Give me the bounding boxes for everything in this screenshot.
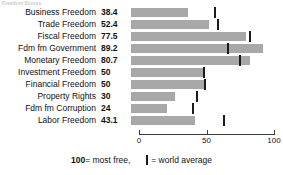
category-label: Monetary Freedom: [0, 56, 100, 65]
value-bar: [131, 80, 205, 89]
value-bar: [131, 116, 195, 125]
category-label: Investment Freedom: [0, 68, 100, 77]
category-value: 24: [100, 104, 131, 113]
chart-row: Financial Freedom 50: [0, 78, 283, 90]
category-value: 38.4: [100, 8, 131, 17]
world-average-marker: [217, 19, 219, 30]
chart-row: Property Rights 30: [0, 90, 283, 102]
value-bar: [131, 20, 209, 29]
world-average-marker: [249, 31, 251, 42]
axis-tick-label: 50: [202, 136, 211, 145]
value-bar: [131, 104, 167, 113]
axis-tick: [139, 130, 140, 135]
bar-track: [131, 6, 279, 18]
value-bar: [131, 32, 246, 41]
world-average-marker-icon: [146, 155, 148, 165]
chart-row: Fdm fm Government 89.2: [0, 42, 283, 54]
chart-row: Investment Freedom 50: [0, 66, 283, 78]
world-average-marker: [239, 55, 241, 66]
value-bar: [131, 44, 263, 53]
value-bar: [131, 56, 250, 65]
category-value: 50: [100, 80, 131, 89]
chart-row: Monetary Freedom 80.7: [0, 54, 283, 66]
category-label: Fdm fm Corruption: [0, 104, 100, 113]
value-bar: [131, 8, 188, 17]
bar-track: [131, 102, 279, 114]
axis-tick: [274, 130, 275, 135]
axis-tick-label: 100: [267, 136, 280, 145]
value-bar: [131, 92, 175, 101]
category-value: 43.1: [100, 116, 131, 125]
category-label: Property Rights: [0, 92, 100, 101]
world-average-marker: [196, 91, 198, 102]
freedom-scores-chart: Freedom Scores Business Freedom 38.4 Tra…: [0, 0, 283, 175]
chart-row: Fdm fm Corruption 24: [0, 102, 283, 114]
legend-scale-note: = most free,: [85, 155, 130, 165]
chart-row: Trade Freedom 52.4: [0, 18, 283, 30]
category-label: Fiscal Freedom: [0, 32, 100, 41]
world-average-marker: [192, 103, 194, 114]
category-label: Trade Freedom: [0, 20, 100, 29]
axis-tick-label: 0: [137, 136, 141, 145]
bar-track: [131, 30, 279, 42]
bar-track: [131, 90, 279, 102]
chart-row: Labor Freedom 43.1: [0, 114, 283, 126]
world-average-marker: [204, 79, 206, 90]
category-label: Financial Freedom: [0, 80, 100, 89]
category-value: 77.5: [100, 32, 131, 41]
world-average-marker: [203, 67, 205, 78]
bar-track: [131, 78, 279, 90]
world-average-marker: [214, 7, 216, 18]
legend-scale-bold: 100: [71, 155, 85, 165]
category-value: 30: [100, 92, 131, 101]
world-average-marker: [227, 43, 229, 54]
world-average-marker: [223, 115, 225, 126]
chart-rows: Business Freedom 38.4 Trade Freedom 52.4…: [0, 6, 283, 126]
legend-marker-note: = world average: [151, 155, 212, 165]
category-value: 80.7: [100, 56, 131, 65]
bar-track: [131, 42, 279, 54]
chart-row: Business Freedom 38.4: [0, 6, 283, 18]
chart-row: Fiscal Freedom 77.5: [0, 30, 283, 42]
bar-track: [131, 114, 279, 126]
category-label: Fdm fm Government: [0, 44, 100, 53]
value-bar: [131, 68, 205, 77]
bar-track: [131, 54, 279, 66]
x-axis: 0 50 100: [131, 130, 271, 150]
bar-track: [131, 18, 279, 30]
category-label: Labor Freedom: [0, 116, 100, 125]
category-value: 50: [100, 68, 131, 77]
chart-legend: 100 = most free, = world average: [0, 155, 283, 165]
category-value: 89.2: [100, 44, 131, 53]
category-label: Business Freedom: [0, 8, 100, 17]
axis-tick: [207, 130, 208, 135]
bar-track: [131, 66, 279, 78]
category-value: 52.4: [100, 20, 131, 29]
